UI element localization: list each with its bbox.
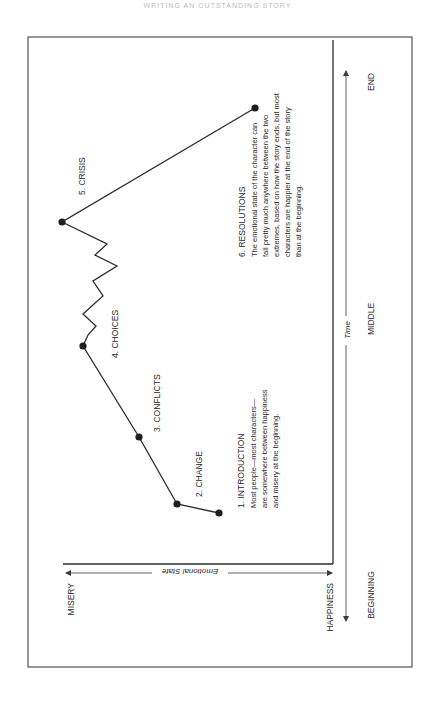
point-change	[173, 500, 180, 507]
stage-resolutions-body-3: extremes, based on how the story ends, b…	[272, 92, 281, 257]
stage-introduction: 1. INTRODUCTION Most people—most charact…	[236, 389, 280, 508]
middle-label: MIDDLE	[366, 303, 376, 335]
outer-frame	[28, 37, 412, 667]
stage-resolutions-body-5: than at the beginning.	[294, 185, 303, 257]
point-resolution	[251, 104, 258, 111]
stage-resolutions-body-1: The emotional state of the character can	[250, 123, 259, 257]
beginning-label: BEGINNING	[366, 571, 376, 619]
stage-resolutions-body-4: characters are happier at the end of the…	[283, 107, 292, 257]
stage-conflicts-title: 3. CONFLICTS	[152, 374, 162, 432]
stage-introduction-title: 1. INTRODUCTION	[236, 433, 246, 508]
story-arc-line	[62, 108, 255, 513]
stage-introduction-body-1: Most people—most characters—	[249, 398, 258, 508]
point-crisis	[58, 218, 65, 225]
point-conflicts	[135, 433, 142, 440]
stage-choices-title: 4. CHOICES	[110, 309, 120, 358]
point-introduction	[215, 509, 222, 516]
misery-label: MISERY	[66, 583, 76, 616]
happiness-label: HAPPINESS	[325, 583, 335, 632]
end-label: END	[366, 73, 376, 91]
stage-resolutions: 6. RESOLUTIONS The emotional state of th…	[237, 92, 303, 257]
stage-change-title: 2. CHANGE	[194, 451, 204, 497]
stage-resolutions-title: 6. RESOLUTIONS	[237, 186, 247, 257]
emotional-state-label: Emotional State	[161, 567, 218, 576]
story-arc-diagram: Emotional State MISERY HAPPINESS Time BE…	[0, 0, 435, 704]
stage-introduction-body-2: are somewhere between happiness	[260, 389, 269, 508]
stage-crisis-title: 5. CRISIS	[77, 157, 87, 195]
stage-resolutions-body-2: fall pretty much anywhere between the tw…	[261, 115, 270, 257]
stage-introduction-body-3: and misery at the beginning.	[271, 414, 280, 508]
point-choices	[79, 342, 86, 349]
time-label: Time	[343, 321, 352, 339]
